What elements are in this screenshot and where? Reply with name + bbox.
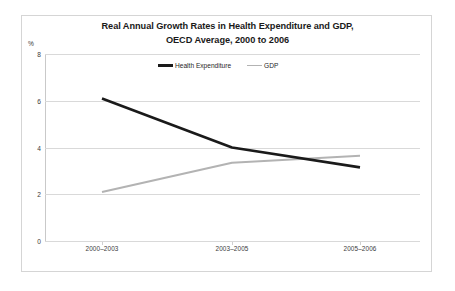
y-tick-label-6: 6 xyxy=(19,97,41,104)
x-tick-label-3: 2005–2006 xyxy=(315,245,405,252)
y-tick-label-2: 2 xyxy=(19,191,41,198)
y-tick-label-8: 8 xyxy=(19,51,41,58)
chart-title-line-2: OECD Average, 2000 to 2006 xyxy=(40,34,415,48)
y-tick-label-4: 4 xyxy=(19,144,41,151)
y-tick-label-0: 0 xyxy=(19,238,41,245)
chart-title: Real Annual Growth Rates in Health Expen… xyxy=(40,20,415,47)
x-tick-label-1: 2000–2003 xyxy=(57,245,147,252)
series-svg-layer xyxy=(45,54,420,241)
chart-title-line-1: Real Annual Growth Rates in Health Expen… xyxy=(102,21,354,31)
plot-area xyxy=(45,54,420,241)
x-tick-label-2: 2003–2005 xyxy=(187,245,277,252)
y-axis-unit-label: % xyxy=(28,40,34,47)
chart-figure: Real Annual Growth Rates in Health Expen… xyxy=(0,0,455,291)
gridline-0 xyxy=(45,241,420,242)
